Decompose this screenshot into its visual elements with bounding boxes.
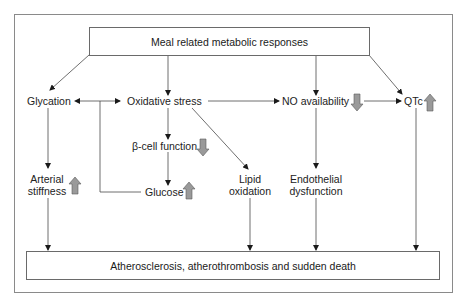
node-glycation: Glycation: [27, 95, 71, 107]
up-arrow-icon: [424, 94, 436, 111]
node-oxidative-stress: Oxidative stress: [127, 95, 202, 107]
node-glucose: Glucose: [145, 186, 184, 198]
down-arrow-icon: [197, 139, 209, 156]
node-endothelial-dysfunction: Endothelial dysfunction: [286, 173, 346, 197]
bottom-box: Atherosclerosis, atherothrombosis and su…: [26, 251, 440, 280]
top-box: Meal related metabolic responses: [89, 27, 370, 56]
node-beta-cell-function: β-cell function: [132, 140, 197, 152]
node-no-availability: NO availability: [282, 95, 349, 107]
up-arrow-icon: [183, 182, 195, 199]
top-box-label: Meal related metabolic responses: [90, 36, 369, 48]
node-arterial-stiffness: Arterial stiffness: [23, 173, 71, 197]
node-qtc: QTc: [404, 95, 423, 107]
node-lipid-oxidation: Lipid oxidation: [225, 173, 275, 197]
down-arrow-icon: [351, 94, 363, 111]
bottom-box-label: Atherosclerosis, atherothrombosis and su…: [27, 260, 439, 272]
